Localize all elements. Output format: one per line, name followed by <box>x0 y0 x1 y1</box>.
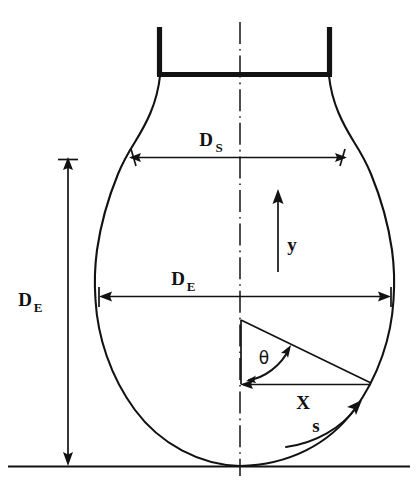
s-arrowhead <box>347 400 362 415</box>
vessel-right-profile <box>240 76 394 466</box>
dimension-de-horizontal: D E <box>99 268 391 307</box>
de-horizontal-label-subscript: E <box>187 279 196 294</box>
angle-triangle: θ X <box>240 320 371 413</box>
theta-label: θ <box>259 348 269 368</box>
coordinate-y: y <box>273 189 298 272</box>
ds-label-subscript: S <box>215 140 222 155</box>
x-label: X <box>296 392 310 413</box>
vessel-neck <box>157 27 332 75</box>
vessel-left-profile <box>95 76 240 466</box>
y-axis-label: y <box>287 234 297 255</box>
de-horizontal-label-symbol: D <box>171 268 185 289</box>
technical-diagram: D S D E D E y <box>0 0 418 502</box>
dimension-de-vertical: D E <box>18 157 78 466</box>
ds-label-symbol: D <box>199 129 213 150</box>
de-vertical-label-symbol: D <box>18 289 32 310</box>
de-vertical-label-subscript: E <box>34 300 43 315</box>
bulb-vessel-figure: D S D E D E y <box>0 0 418 502</box>
s-label: s <box>312 415 319 436</box>
dimension-ds: D S <box>129 129 347 166</box>
